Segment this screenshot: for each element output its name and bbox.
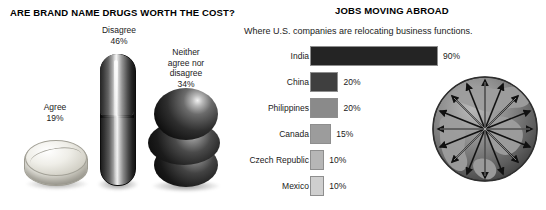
bar-rect <box>310 98 338 118</box>
bar-row: Philippines20% <box>240 98 440 118</box>
bar-value-label: 10% <box>329 181 346 191</box>
bar-value-label: 15% <box>336 129 353 139</box>
label-disagree-text: Disagree <box>84 25 154 36</box>
label-agree-text: Agree <box>24 102 86 113</box>
label-neither-agree-nor-disagree: Neither agree nor disagree 34% <box>152 47 220 89</box>
bar-row: China20% <box>240 72 440 92</box>
bar-category-label: Canada <box>279 129 309 139</box>
bar-rect <box>310 124 331 144</box>
label-disagree: Disagree 46% <box>84 25 154 46</box>
bar-rect <box>310 176 324 196</box>
bar-row: Canada15% <box>240 124 440 144</box>
bar-rect <box>310 150 324 170</box>
sphere-top <box>154 88 218 140</box>
bar-rect <box>310 72 338 92</box>
round-tablet-pill-icon <box>22 138 90 190</box>
label-agree: Agree 19% <box>24 102 86 123</box>
bar-row: India90% <box>240 46 440 66</box>
bar-category-label: India <box>291 51 309 61</box>
left-panel-title: ARE BRAND NAME DRUGS WORTH THE COST? <box>10 7 235 18</box>
label-agree-value: 19% <box>24 113 86 124</box>
label-neither-line3: disagree <box>152 68 220 79</box>
label-disagree-value: 46% <box>84 36 154 47</box>
capsule-highlight <box>114 60 118 178</box>
infographic-root: ARE BRAND NAME DRUGS WORTH THE COST? Agr… <box>0 0 546 210</box>
label-neither-line2: agree nor <box>152 58 220 69</box>
bar-value-label: 20% <box>343 103 360 113</box>
capsule-pill-icon <box>97 54 139 192</box>
bar-rect <box>310 46 438 66</box>
bar-category-label: Mexico <box>282 181 309 191</box>
panel-jobs-moving-abroad: JOBS MOVING ABROAD Where U.S. companies … <box>240 0 546 210</box>
bar-value-label: 10% <box>329 155 346 165</box>
bar-value-label: 20% <box>343 77 360 87</box>
globe-with-radiating-arrows-icon <box>430 74 540 184</box>
bar-category-label: Czech Republic <box>249 155 309 165</box>
jobs-bar-chart: India90%China20%Philippines20%Canada15%C… <box>240 0 440 210</box>
bar-row: Mexico10% <box>240 176 440 196</box>
label-neither-line1: Neither <box>152 47 220 58</box>
bar-category-label: Philippines <box>268 103 309 113</box>
bar-value-label: 90% <box>443 51 460 61</box>
stacked-spheres-pill-icon <box>146 88 226 192</box>
bar-category-label: China <box>287 77 309 87</box>
panel-brand-name-drugs: ARE BRAND NAME DRUGS WORTH THE COST? Agr… <box>0 0 240 210</box>
bar-row: Czech Republic10% <box>240 150 440 170</box>
